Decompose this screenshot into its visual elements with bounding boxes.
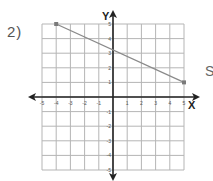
coordinate-plane-chart: XY-5-4-3-2-112345-5-4-3-2-112345 <box>0 0 213 181</box>
x-tick-label: 3 <box>154 100 157 106</box>
x-tick-label: 5 <box>183 100 186 106</box>
endpoint-marker <box>54 22 58 26</box>
y-tick-label: -5 <box>107 167 112 173</box>
x-axis-label: X <box>188 99 196 111</box>
x-tick-label: -5 <box>40 100 45 106</box>
y-tick-label: 3 <box>108 50 111 56</box>
y-tick-label: 4 <box>108 36 111 42</box>
x-tick-label: -3 <box>68 100 73 106</box>
x-tick-label: -4 <box>54 100 59 106</box>
x-tick-label: 1 <box>126 100 129 106</box>
endpoint-marker <box>182 80 186 84</box>
y-tick-label: 5 <box>108 21 111 27</box>
y-tick-label: -4 <box>107 152 112 158</box>
y-tick-label: -3 <box>107 138 112 144</box>
y-tick-label: -1 <box>107 109 112 115</box>
x-tick-label: 2 <box>140 100 143 106</box>
y-tick-label: -2 <box>107 123 112 129</box>
x-tick-label: -2 <box>82 100 87 106</box>
y-tick-label: 1 <box>108 79 111 85</box>
x-tick-label: -1 <box>97 100 102 106</box>
y-tick-label: 2 <box>108 65 111 71</box>
x-tick-label: 4 <box>168 100 171 106</box>
